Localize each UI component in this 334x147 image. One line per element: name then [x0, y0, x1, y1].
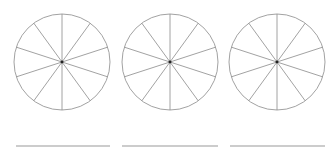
center-dot — [61, 61, 64, 64]
sector-divider — [170, 47, 216, 62]
sector-divider — [277, 23, 305, 62]
fraction-circle-2 — [122, 14, 218, 110]
sector-divider — [124, 47, 170, 62]
sector-divider — [124, 62, 170, 77]
sector-divider — [142, 62, 170, 101]
sector-divider — [231, 62, 277, 77]
sector-divider — [62, 62, 90, 101]
sector-divider — [16, 62, 62, 77]
fraction-circle-3 — [229, 14, 325, 110]
sector-divider — [62, 23, 90, 62]
fraction-circles-diagram — [0, 0, 334, 147]
sector-divider — [277, 62, 323, 77]
sector-divider — [62, 47, 108, 62]
sector-divider — [249, 62, 277, 101]
sector-divider — [16, 47, 62, 62]
center-dot — [169, 61, 172, 64]
sector-divider — [170, 23, 198, 62]
sector-divider — [277, 62, 305, 101]
sector-divider — [249, 23, 277, 62]
sector-divider — [170, 62, 198, 101]
center-dot — [276, 61, 279, 64]
sector-divider — [142, 23, 170, 62]
sector-divider — [231, 47, 277, 62]
sector-divider — [277, 47, 323, 62]
sector-divider — [62, 62, 108, 77]
sector-divider — [34, 23, 62, 62]
sector-divider — [170, 62, 216, 77]
sector-divider — [34, 62, 62, 101]
fraction-circle-1 — [14, 14, 110, 110]
